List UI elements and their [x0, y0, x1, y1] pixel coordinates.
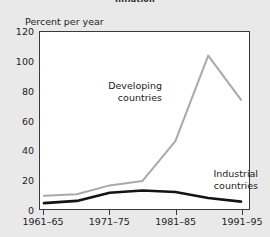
y-tick-label: 80	[2, 85, 34, 96]
annotation-industrial-line1: Industrial	[184, 168, 258, 180]
chart-title: Inflation	[0, 0, 270, 4]
annotation-developing-line1: Developing	[94, 80, 162, 92]
x-tick-mark	[109, 210, 110, 215]
y-tick-label: 40	[2, 145, 34, 156]
y-axis-label: Percent per year	[25, 16, 104, 27]
chart-figure: Inflation Percent per year 0204060801001…	[0, 0, 270, 237]
annotation-industrial-countries: Industrial countries	[184, 168, 258, 191]
y-tick-label: 60	[2, 115, 34, 126]
x-tick-mark	[242, 210, 243, 215]
annotation-developing-line2: countries	[94, 92, 162, 104]
x-tick-label: 1991–95	[221, 216, 262, 227]
series-line-industrial-countries	[44, 191, 241, 204]
x-tick-label: 1971–75	[89, 216, 130, 227]
x-tick-mark	[43, 210, 44, 215]
x-tick-label: 1961–65	[22, 216, 63, 227]
y-tick-label: 0	[2, 205, 34, 216]
y-tick-label: 120	[2, 26, 34, 37]
annotation-developing-countries: Developing countries	[94, 80, 162, 103]
annotation-industrial-line2: countries	[184, 180, 258, 192]
x-tick-label: 1981–85	[155, 216, 196, 227]
x-tick-mark	[176, 210, 177, 215]
y-tick-label: 20	[2, 175, 34, 186]
y-tick-label: 100	[2, 55, 34, 66]
